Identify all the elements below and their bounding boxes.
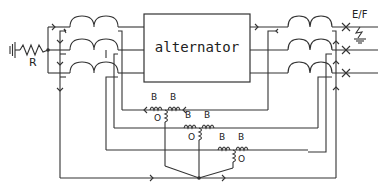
relay-2: B B O (184, 110, 214, 178)
relay-1-operating: O (154, 113, 161, 123)
left-ct-phase-2 (70, 39, 118, 50)
earth-fault-symbol (354, 27, 366, 43)
relay-2-bias-right: B (204, 110, 210, 120)
relay-3: B B O (218, 132, 248, 168)
ground-symbol-left (10, 42, 20, 58)
circuit-diagram: R alternator (0, 0, 378, 190)
relay-2-bias-left: B (185, 110, 191, 120)
relay-1-bias-left: B (151, 92, 157, 102)
left-ct-phase-1 (70, 16, 118, 27)
right-ct-phase-1 (288, 16, 332, 27)
relay-3-bias-left: B (219, 132, 225, 142)
earth-fault-label: E/F (352, 9, 368, 20)
left-ct-phase-3 (70, 62, 118, 73)
relay-3-bias-right: B (238, 132, 244, 142)
relay-1: B B O (150, 92, 180, 166)
relay-2-operating: O (188, 132, 195, 142)
alternator-label: alternator (155, 39, 239, 55)
right-ct-phase-3 (288, 62, 332, 73)
resistor-label: R (29, 56, 37, 69)
right-ct-phase-2 (288, 39, 332, 50)
relay-1-bias-right: B (170, 92, 176, 102)
operating-star-node (197, 176, 201, 180)
neutral-resistor (20, 45, 48, 55)
relay-3-operating: O (238, 154, 245, 164)
